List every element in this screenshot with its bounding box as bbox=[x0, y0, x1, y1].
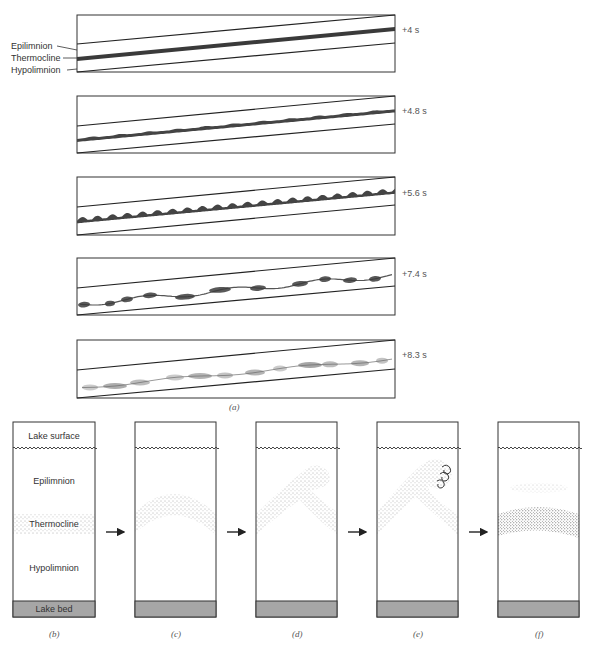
billow-blob bbox=[143, 292, 157, 299]
label-hypolimnion: Hypolimnion bbox=[11, 65, 61, 75]
billow-blob bbox=[319, 276, 331, 283]
lower-boundary-line bbox=[77, 43, 395, 72]
panel-e: (e) bbox=[377, 422, 461, 639]
label-thermocline: Thermocline bbox=[11, 53, 61, 63]
turbulent-patch bbox=[188, 373, 212, 379]
panel-b: Lake surface Epilimnion Thermocline Hypo… bbox=[13, 422, 97, 639]
upper-boundary-line bbox=[77, 96, 395, 126]
label-lake-surface: Lake surface bbox=[28, 431, 80, 441]
leader-line-epilimnion bbox=[57, 46, 77, 50]
lake-bed bbox=[256, 601, 337, 617]
upper-boundary-line bbox=[77, 340, 395, 370]
billow-blob bbox=[121, 296, 133, 303]
panel-d: (d) bbox=[256, 422, 340, 639]
caption-a: (a) bbox=[229, 402, 240, 412]
turbulent-patch bbox=[322, 361, 338, 367]
panel-a2: +4.8 s bbox=[77, 96, 427, 153]
time-label: +4.8 s bbox=[402, 106, 427, 116]
billow-blob bbox=[369, 275, 381, 282]
panel-a1: +4 s bbox=[77, 15, 420, 72]
lake-bed bbox=[135, 601, 216, 617]
billow-blob bbox=[250, 285, 266, 292]
label-epilimnion: Epilimnion bbox=[33, 476, 75, 486]
panel-f: (f) bbox=[498, 422, 582, 639]
caption-c: (c) bbox=[171, 629, 181, 639]
parts-b-to-f: Lake surface Epilimnion Thermocline Hypo… bbox=[13, 422, 582, 639]
time-label: +4 s bbox=[402, 25, 420, 35]
panel-c: (c) bbox=[135, 422, 219, 639]
caption-e: (e) bbox=[413, 629, 423, 639]
label-epilimnion: Epilimnion bbox=[11, 41, 53, 51]
time-label: +8.3 s bbox=[402, 350, 427, 360]
label-lake-bed: Lake bed bbox=[35, 604, 72, 614]
turbulent-patch bbox=[130, 380, 150, 386]
leader-line-hypolimnion bbox=[67, 69, 77, 70]
turbulent-patch bbox=[245, 370, 265, 376]
billowed-thermocline bbox=[77, 189, 395, 224]
turbulent-patch bbox=[273, 366, 287, 372]
upper-boundary-line bbox=[77, 15, 395, 44]
panel-a4: +7.4 s bbox=[77, 258, 427, 315]
billow-blob bbox=[78, 301, 90, 308]
rolled-billows bbox=[78, 275, 392, 308]
lake-bed bbox=[498, 601, 579, 617]
turbulent-patch bbox=[166, 374, 184, 380]
panel-frame bbox=[77, 340, 395, 398]
billow-blob bbox=[292, 280, 308, 287]
upper-boundary-line bbox=[77, 258, 395, 288]
turbulent-patch bbox=[351, 360, 369, 366]
lower-boundary-line bbox=[77, 369, 395, 398]
billow-blob bbox=[175, 293, 195, 300]
detached-mixed-layer bbox=[510, 483, 568, 493]
turbulent-patch bbox=[298, 362, 322, 368]
thermocline-sheet bbox=[77, 27, 395, 61]
upper-boundary-line bbox=[77, 177, 395, 207]
time-label: +7.4 s bbox=[402, 269, 427, 279]
turbulent-patch bbox=[82, 384, 98, 390]
caption-f: (f) bbox=[535, 629, 544, 639]
lake-bed bbox=[377, 601, 458, 617]
turbulent-patch bbox=[217, 372, 233, 378]
rippled-thermocline bbox=[77, 109, 395, 141]
panel-frame bbox=[77, 258, 395, 315]
lower-boundary-line bbox=[77, 124, 395, 153]
turbulent-patch bbox=[103, 383, 127, 389]
billow-blob bbox=[105, 300, 115, 306]
label-thermocline: Thermocline bbox=[29, 519, 79, 529]
caption-b: (b) bbox=[49, 629, 60, 639]
panel-a3: +5.6 s bbox=[77, 177, 427, 235]
lower-boundary-line bbox=[77, 205, 395, 235]
caption-d: (d) bbox=[292, 629, 303, 639]
lake-stratification-figure: Epilimnion Thermocline Hypolimnion +4 s … bbox=[0, 0, 593, 646]
time-label: +5.6 s bbox=[402, 188, 427, 198]
part-a: Epilimnion Thermocline Hypolimnion +4 s … bbox=[11, 15, 427, 412]
label-hypolimnion: Hypolimnion bbox=[29, 563, 79, 573]
turbulent-patch bbox=[376, 358, 388, 364]
panel-a5: +8.3 s bbox=[77, 340, 427, 398]
billow-blob bbox=[343, 277, 357, 284]
